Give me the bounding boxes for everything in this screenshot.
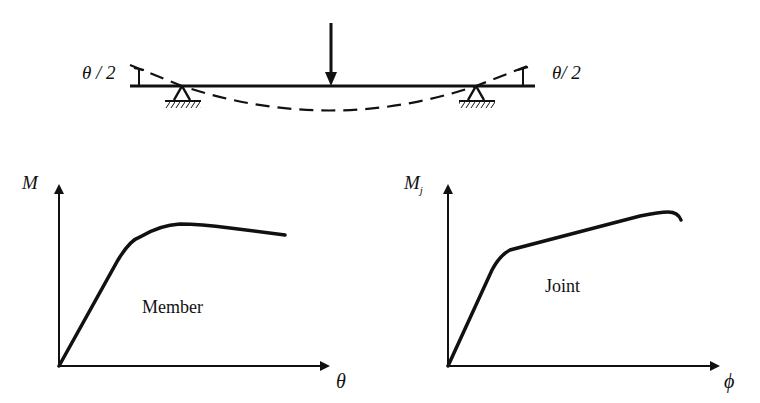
joint-y-axis-subscript: j xyxy=(420,184,423,196)
diagram-canvas xyxy=(0,0,760,403)
member-curve xyxy=(59,224,285,366)
joint-chart xyxy=(448,186,718,366)
member-chart xyxy=(59,186,328,366)
member-x-axis-label: θ xyxy=(336,370,346,393)
left-angle-label: θ / 2 xyxy=(82,62,116,84)
right-angle-label: θ/ 2 xyxy=(552,62,581,84)
load-arrow-icon xyxy=(325,23,337,86)
beam xyxy=(130,23,535,111)
joint-curve-label: Joint xyxy=(545,276,580,297)
joint-x-axis-label: ϕ xyxy=(724,370,734,393)
member-curve-label: Member xyxy=(142,297,203,318)
joint-y-axis-label: Mj xyxy=(404,172,423,196)
member-y-axis-label: M xyxy=(22,172,38,194)
